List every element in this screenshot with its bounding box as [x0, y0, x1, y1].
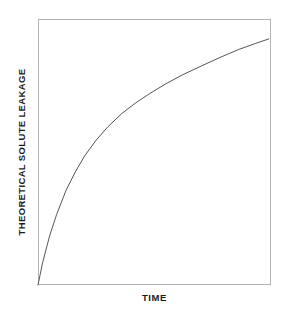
- plot-frame: [38, 19, 271, 285]
- y-axis-title: THEORETICAL SOLUTE LEAKAGE: [14, 19, 30, 285]
- x-axis-title: TIME: [38, 291, 271, 304]
- figure-canvas: THEORETICAL SOLUTE LEAKAGE TIME: [0, 0, 287, 311]
